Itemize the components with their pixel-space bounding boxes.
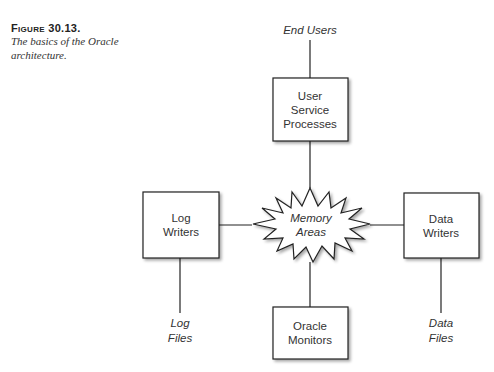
box-log-writers [143,192,219,258]
end-users-label: End Users [283,24,337,36]
user-service-line1: User [298,90,322,102]
user-service-line2: Service [291,104,329,116]
data-files-line1: Data [429,317,453,329]
memory-areas-line2: Areas [295,226,326,238]
data-writers-line2: Writers [423,227,459,239]
box-oracle-monitors [273,307,348,359]
log-files-line2: Files [168,332,193,344]
data-writers-line1: Data [429,213,454,225]
user-service-line3: Processes [283,118,337,130]
log-files-line1: Log [170,317,190,329]
oracle-monitors-line2: Monitors [288,334,332,346]
oracle-architecture-diagram: User Service Processes Log Writers Data … [0,0,494,372]
log-writers-line2: Writers [163,226,199,238]
oracle-monitors-line1: Oracle [293,320,327,332]
data-files-line2: Files [429,332,454,344]
memory-areas-starburst [253,188,370,262]
box-data-writers [404,193,479,258]
memory-areas-line1: Memory [290,212,333,224]
log-writers-line1: Log [171,212,190,224]
